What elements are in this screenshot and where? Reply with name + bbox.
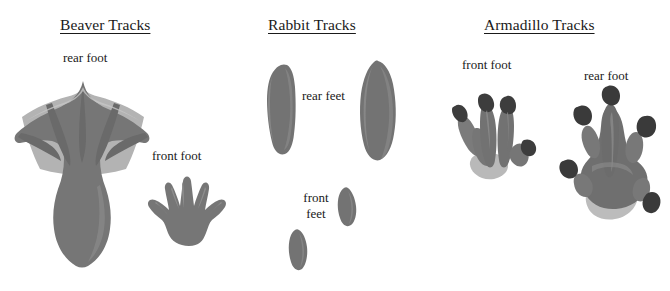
rabbit-front-lower-track xyxy=(286,228,312,272)
beaver-front-foot-label: front foot xyxy=(152,148,201,164)
beaver-rear-foot-label: rear foot xyxy=(63,50,107,66)
rabbit-panel-title: Rabbit Tracks xyxy=(268,16,356,34)
rabbit-rear-feet-label: rear feet xyxy=(302,88,345,104)
rabbit-rear-left-track xyxy=(263,62,303,158)
armadillo-panel-title: Armadillo Tracks xyxy=(484,16,595,34)
rabbit-front-feet-label-line2: feet xyxy=(306,206,325,221)
beaver-rear-foot-track xyxy=(8,73,158,269)
rabbit-front-feet-label: frontfeet xyxy=(292,190,340,223)
track-chart-figure: Beaver Tracks rear foot front foot xyxy=(0,0,670,291)
beaver-panel-title: Beaver Tracks xyxy=(60,16,150,34)
rabbit-front-upper-track xyxy=(334,186,360,228)
rabbit-rear-right-track xyxy=(356,58,402,164)
beaver-front-foot-track xyxy=(146,172,232,252)
armadillo-rear-foot-track xyxy=(556,80,666,226)
armadillo-front-foot-track xyxy=(448,82,540,186)
rabbit-front-feet-label-line1: front xyxy=(303,190,328,205)
armadillo-front-foot-label: front foot xyxy=(462,57,511,73)
